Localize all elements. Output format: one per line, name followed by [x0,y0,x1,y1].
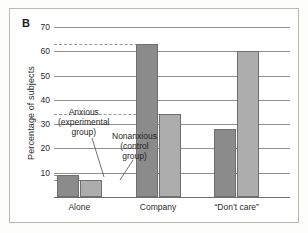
annotation-anxious-line3: group) [58,128,110,138]
y-tick-label-30: 30 [41,119,50,129]
y-tick-label-70: 70 [41,22,50,32]
bar-nonanxious-1 [159,114,181,197]
y-axis-title: Percentage of subjects [26,43,36,183]
bar-anxious-1 [136,44,158,197]
y-tick-label-20: 20 [41,143,50,153]
panel-letter: B [22,17,30,29]
figure-panel: B Percentage of subjects 10203040506070 … [0,0,308,233]
gridline-70 [54,27,290,28]
bar-nonanxious-0 [80,180,102,197]
axis-baseline [54,197,290,198]
y-tick-label-10: 10 [41,168,50,178]
y-tick-label-60: 60 [41,46,50,56]
x-tick-label-2: “Don’t care” [214,202,258,212]
bar-nonanxious-2 [237,51,259,197]
annotation-anxious: Anxious (experimental group) [58,108,110,137]
y-tick-label-50: 50 [41,71,50,81]
bar-anxious-2 [214,129,236,197]
annotation-nonanxious: Nonanxious (control group) [112,132,157,161]
x-tick-label-0: Alone [68,202,90,212]
x-tick-label-1: Company [140,202,176,212]
annotation-nonanxious-line3: group) [112,152,157,162]
y-tick-label-40: 40 [41,95,50,105]
bar-anxious-0 [57,175,79,197]
